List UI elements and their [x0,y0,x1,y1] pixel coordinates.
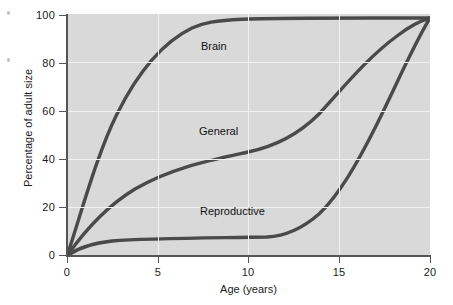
y-tick-mark-0 [59,255,67,256]
x-tick-mark-10 [248,256,249,263]
gridline-vertical-10 [248,14,249,256]
gridline-vertical-15 [339,14,340,256]
x-tick-label-0: 0 [47,266,87,278]
y-tick-label-40: 40 [15,153,55,165]
x-axis-title: Age (years) [67,283,430,295]
y-tick-mark-40 [59,159,67,160]
y-tick-mark-80 [59,63,67,64]
y-tick-mark-20 [59,207,67,208]
gridline-vertical-5 [158,14,159,256]
y-axis-title: Percentage of adult size [22,38,34,218]
growth-curves-figure: Brain General Reproductive 100 80 60 40 … [0,0,453,305]
scan-artifact-speck [7,11,10,15]
y-tick-label-0: 0 [15,249,55,261]
x-tick-mark-20 [430,256,431,263]
y-tick-label-80: 80 [15,57,55,69]
curve-label-reproductive: Reproductive [200,205,265,217]
x-tick-mark-0 [67,256,68,263]
x-tick-label-10: 10 [228,266,268,278]
y-axis-line [66,14,68,257]
x-tick-label-5: 5 [138,266,178,278]
plot-area: Brain General Reproductive [67,14,430,256]
x-tick-label-15: 15 [319,266,359,278]
y-tick-label-20: 20 [15,201,55,213]
curve-label-general: General [199,125,238,137]
curve-label-brain: Brain [201,40,227,52]
y-tick-label-100: 100 [15,9,55,21]
y-tick-label-60: 60 [15,105,55,117]
y-tick-mark-100 [59,15,67,16]
y-tick-mark-60 [59,111,67,112]
x-tick-label-20: 20 [410,266,450,278]
x-tick-mark-5 [158,256,159,263]
scan-artifact-speck [7,58,10,62]
x-tick-mark-15 [339,256,340,263]
